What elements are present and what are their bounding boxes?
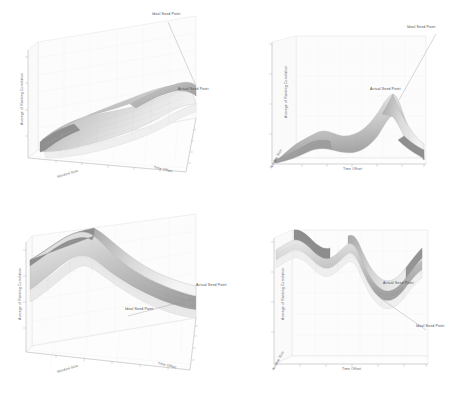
axis-label-x: Time Offset [342, 368, 361, 372]
panel-bottom-right: Actual Seed Point Ideal Seed Point Avera… [240, 198, 475, 397]
z-axis-ticks [271, 242, 274, 332]
panel-top-left: Ideal Seed Point Actual Seed Point Avera… [0, 0, 240, 198]
annotation-actual-seed-point: Actual Seed Point [178, 88, 209, 92]
annotation-ideal-seed-point: Ideal Seed Point [125, 308, 153, 312]
surface-chart-top-left [0, 0, 240, 198]
axis-label-z: Average of Ranking Correlation [21, 73, 25, 125]
axis-label-z: Average of Ranking Correlation [19, 268, 23, 320]
annotation-ideal-seed-point: Ideal Seed Point [407, 26, 435, 30]
x-axis-ticks [302, 164, 424, 167]
annotation-actual-seed-point: Actual Seed Point [196, 284, 227, 288]
surface-plot-figure: Ideal Seed Point Actual Seed Point Avera… [0, 0, 475, 397]
surface-chart-bottom-left [0, 198, 240, 397]
annotation-actual-seed-point: Actual Seed Point [370, 88, 401, 92]
z-axis-ticks [25, 57, 28, 136]
axis-label-x: Time Offset [343, 168, 362, 172]
z-axis-ticks [23, 250, 26, 328]
x-axis-ticks [300, 364, 426, 367]
axis-label-z: Average of Ranking Correlation [282, 268, 286, 320]
z-axis-ticks [269, 44, 272, 134]
panel-bottom-left: Ideal Seed Point Actual Seed Point Avera… [0, 198, 240, 397]
annotation-ideal-seed-point: Ideal Seed Point [416, 325, 444, 329]
panel-top-right: Ideal Seed Point Actual Seed Point Avera… [240, 0, 475, 198]
annotation-ideal-seed-point: Ideal Seed Point [152, 13, 180, 17]
axis-label-z: Average of Ranking Correlation [285, 66, 289, 118]
annotation-actual-seed-point: Actual Seed Point [383, 282, 414, 286]
